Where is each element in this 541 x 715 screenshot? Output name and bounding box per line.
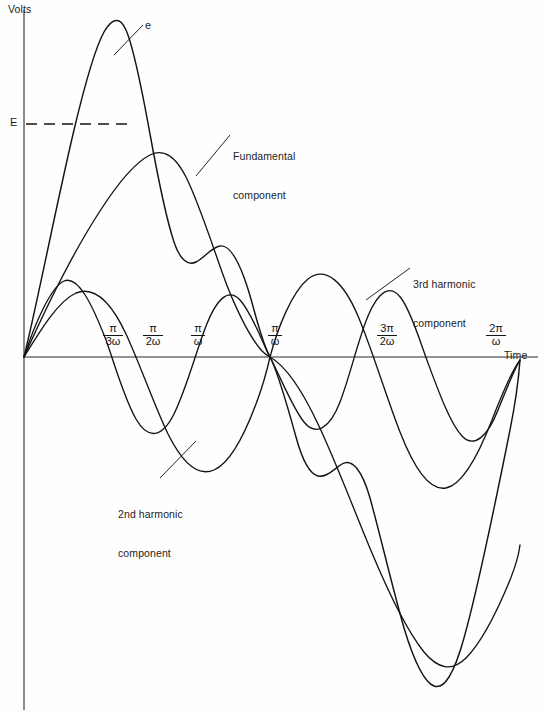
annotation-fundamental-line1: Fundamental	[233, 150, 295, 163]
plot-canvas	[0, 0, 541, 715]
fraction-numerator-4: 3π	[377, 323, 398, 336]
annotation-third-line2: component	[413, 317, 475, 330]
annotation-fundamental: Fundamental component	[233, 124, 295, 228]
leader-line-resultant	[114, 25, 143, 55]
leader-line-second-harmonic	[160, 441, 196, 478]
fraction-3: π ω	[268, 323, 283, 347]
annotation-fundamental-line2: component	[233, 189, 295, 202]
curve-fundamental	[24, 153, 520, 667]
x-tick-label-2: π ω	[175, 323, 221, 347]
x-tick-label-3: π ω	[252, 323, 298, 347]
level-marker-label: E	[10, 116, 17, 129]
annotation-third-line1: 3rd harmonic	[413, 278, 475, 291]
fraction-denominator-5: ω	[486, 336, 506, 348]
annotation-second-line2: component	[118, 547, 183, 560]
x-tick-label-4: 3π 2ω	[364, 323, 410, 347]
fraction-2: π ω	[191, 323, 206, 347]
fraction-denominator-3: ω	[268, 336, 283, 348]
annotation-third-harmonic: 3rd harmonic component	[413, 252, 475, 356]
leader-line-third-harmonic	[366, 268, 410, 300]
fraction-denominator-0: 3ω	[103, 336, 124, 348]
fraction-numerator-3: π	[268, 323, 283, 336]
fraction-5: 2π ω	[486, 323, 506, 347]
harmonic-components-figure: Volts Time E e Fundamental component 2nd…	[0, 0, 541, 715]
fraction-numerator-5: 2π	[486, 323, 506, 336]
x-tick-label-1: π 2ω	[130, 323, 176, 347]
annotation-second-line1: 2nd harmonic	[118, 508, 183, 521]
fraction-denominator-1: 2ω	[143, 336, 164, 348]
x-tick-label-5: 2π ω	[473, 323, 519, 347]
annotation-resultant: e	[145, 19, 151, 32]
fraction-numerator-2: π	[191, 323, 206, 336]
x-axis-label: Time	[504, 349, 527, 362]
fraction-numerator-1: π	[143, 323, 164, 336]
annotation-second-harmonic: 2nd harmonic component	[118, 482, 183, 586]
leader-line-fundamental	[196, 135, 230, 176]
fraction-denominator-4: 2ω	[377, 336, 398, 348]
y-axis-label: Volts	[8, 3, 31, 16]
fraction-1: π 2ω	[143, 323, 164, 347]
fraction-denominator-2: ω	[191, 336, 206, 348]
fraction-numerator-0: π	[103, 323, 124, 336]
fraction-0: π 3ω	[103, 323, 124, 347]
fraction-4: 3π 2ω	[377, 323, 398, 347]
